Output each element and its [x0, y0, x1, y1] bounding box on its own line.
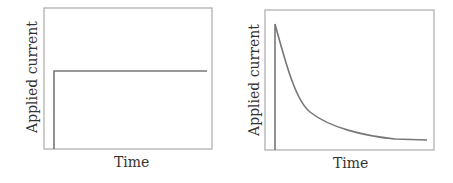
right-decay-curve [275, 24, 427, 150]
right-y-axis-label: Applied current [246, 20, 262, 140]
left-plot-frame [44, 8, 212, 149]
left-step-curve [54, 71, 207, 149]
charts-canvas [0, 0, 453, 183]
left-y-axis-label: Applied current [24, 17, 40, 137]
right-plot-frame [265, 10, 434, 150]
left-x-axis-label: Time [114, 154, 149, 170]
right-x-axis-label: Time [333, 155, 368, 171]
